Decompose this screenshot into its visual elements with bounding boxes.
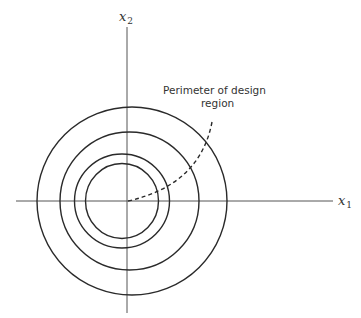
- contour-diagram: x2 x1 Perimeter of design region: [0, 0, 361, 318]
- annotation-line-1: Perimeter of design: [163, 84, 266, 96]
- x1-axis-label: x1: [338, 193, 352, 210]
- diagram-canvas: x2 x1 Perimeter of design region: [0, 0, 361, 318]
- annotation-line-2: region: [201, 97, 234, 109]
- x2-axis-label: x2: [119, 9, 133, 26]
